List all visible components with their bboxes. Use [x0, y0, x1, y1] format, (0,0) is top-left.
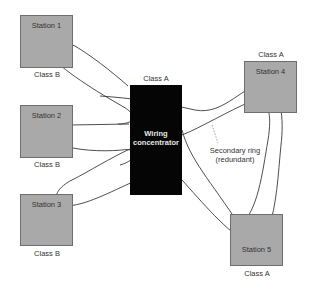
station-1: Station 1 [20, 15, 73, 68]
station-2: Station 2 [20, 105, 73, 158]
station-2-class-label: Class B [17, 160, 77, 169]
station-4-label: Station 4 [245, 67, 296, 76]
station-5-class-label: Class A [227, 269, 287, 278]
annotation-leader-line [212, 125, 218, 143]
station-3-class-label: Class B [17, 249, 77, 258]
concentrator-class-label: Class A [126, 74, 186, 83]
station-3-label: Station 3 [21, 200, 72, 209]
station-1-class-label: Class B [17, 70, 77, 79]
wiring-concentrator: Wiring concentrator [130, 85, 182, 195]
secondary-ring-annotation: Secondary ring (redundant) [195, 146, 275, 164]
ring-network-diagram: Station 1 Class B Station 2 Class B Stat… [0, 0, 311, 290]
station-1-label: Station 1 [21, 21, 72, 30]
station-4: Station 4 [244, 61, 297, 113]
station-5: Station 5 [230, 214, 283, 266]
station-3: Station 3 [20, 194, 73, 246]
concentrator-label: Wiring concentrator [130, 129, 182, 147]
annotation-line2: (redundant) [195, 155, 275, 164]
concentrator-label-line2: concentrator [130, 138, 182, 147]
concentrator-label-line1: Wiring [130, 129, 182, 138]
annotation-line1: Secondary ring [195, 146, 275, 155]
station-5-label: Station 5 [231, 245, 282, 254]
station-2-label: Station 2 [21, 111, 72, 120]
station-4-class-label: Class A [241, 50, 301, 59]
